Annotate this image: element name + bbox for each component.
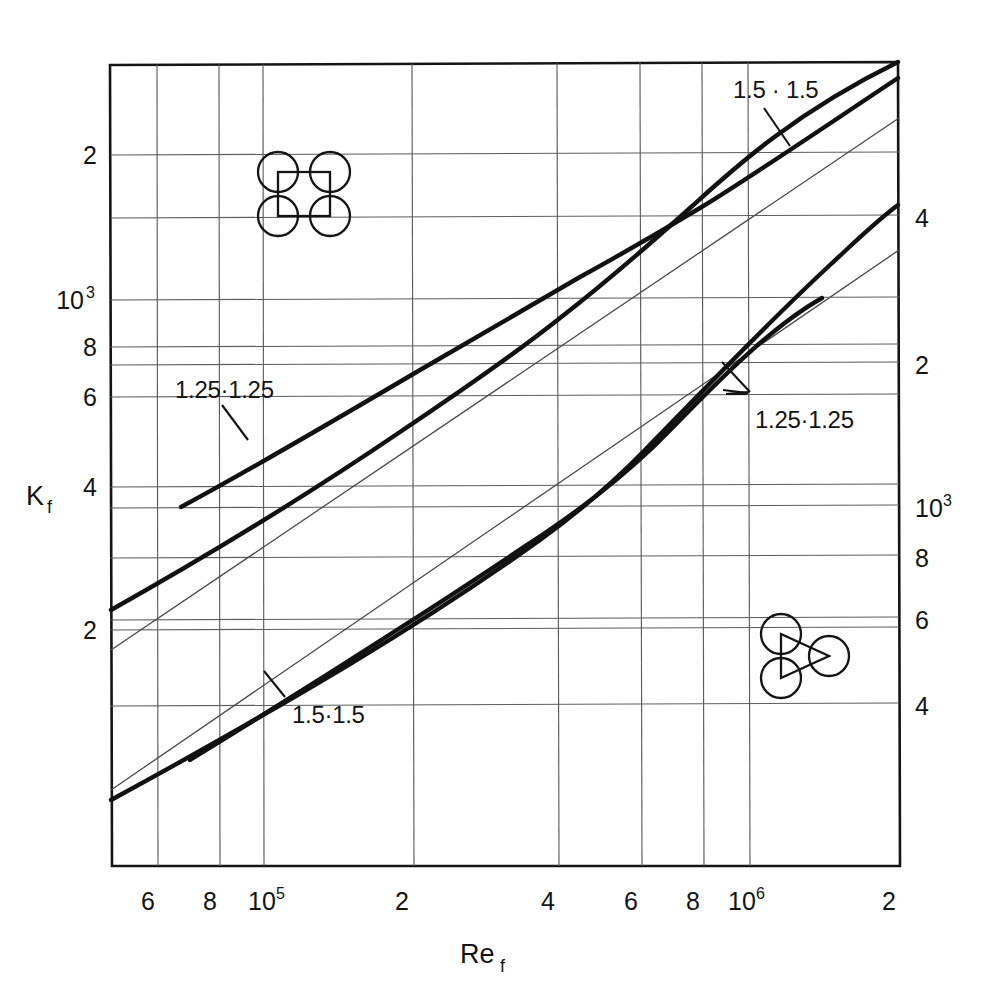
y-right-tick-800: 8 (915, 544, 929, 572)
x-tick-1e6: 10 (728, 887, 756, 915)
y-right-tick-1e3: 10 (915, 494, 943, 522)
y-left-tick-600: 6 (83, 383, 97, 411)
x-tick-4e5: 4 (541, 887, 555, 915)
y-left-tick-1e3-exp: 3 (86, 284, 95, 301)
x-axis-title-main: Re (460, 939, 495, 969)
x-tick-2e5: 2 (395, 887, 409, 915)
y-right-tick-4e3: 4 (915, 204, 929, 232)
curve-label-lower-1.5: 1.5·1.5 (292, 701, 365, 728)
y-right-tick-400: 4 (915, 692, 929, 720)
figure-container: 1.5 · 1.5 1.25·1.25 1.25·1.25 1.5·1.5 6 … (0, 0, 985, 997)
x-tick-8e4: 8 (203, 887, 217, 915)
x-tick-1e6-exp: 6 (756, 885, 765, 902)
x-tick-6e4: 6 (141, 887, 155, 915)
x-tick-6e5: 6 (624, 887, 638, 915)
y-right-tick-600: 6 (915, 606, 929, 634)
x-tick-1e5-exp: 5 (276, 885, 285, 902)
x-tick-8e5: 8 (686, 887, 700, 915)
curve-label-lower-1.25: 1.25·1.25 (755, 406, 854, 433)
y-axis-title-main: K (26, 481, 44, 511)
y-left-tick-1e3: 10 (56, 286, 84, 314)
x-tick-1e5: 10 (248, 887, 276, 915)
y-right-tick-2e3: 2 (915, 351, 929, 379)
chart-background (0, 0, 985, 997)
x-tick-2e6: 2 (882, 887, 896, 915)
y-left-tick-400: 4 (83, 473, 97, 501)
curve-label-upper-1.25: 1.25·1.25 (175, 376, 274, 403)
y-left-tick-200: 2 (83, 616, 97, 644)
curve-label-upper-1.5: 1.5 · 1.5 (733, 76, 818, 103)
y-right-tick-1e3-exp: 3 (943, 492, 952, 509)
y-left-tick-800: 8 (83, 333, 97, 361)
log-log-chart: 1.5 · 1.5 1.25·1.25 1.25·1.25 1.5·1.5 6 … (0, 0, 985, 997)
y-left-tick-2e3: 2 (83, 141, 97, 169)
